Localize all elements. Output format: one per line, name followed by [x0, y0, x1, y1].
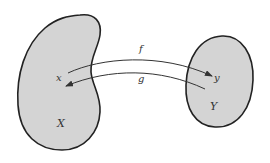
- arrow-g-label: g: [138, 73, 144, 84]
- arrow-f-label: f: [138, 43, 145, 54]
- mapping-diagram: f g x y X Y: [0, 0, 270, 163]
- set-x-label: X: [56, 117, 66, 130]
- element-x-label: x: [56, 72, 62, 83]
- element-y-label: y: [213, 72, 220, 83]
